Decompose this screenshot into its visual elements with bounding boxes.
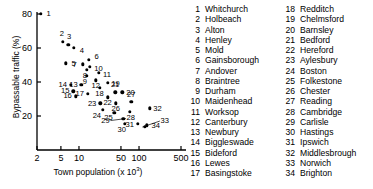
data-point-label-34: 34 <box>152 123 160 131</box>
legend-town-name: Biggleswade <box>205 137 254 147</box>
legend-number: 30 <box>278 127 300 137</box>
y-tick-label-80: 80 <box>12 10 32 19</box>
legend-town-name: Boston <box>300 66 327 76</box>
legend-number: 4 <box>183 35 205 45</box>
legend-town-name: Folkestone <box>300 76 342 86</box>
legend-town-name: Hastings <box>300 127 333 137</box>
legend-item-15: 15Bideford <box>183 148 278 158</box>
legend-item-27: 27Reading <box>278 96 373 106</box>
legend-number: 32 <box>278 148 300 158</box>
legend-item-23: 23Aylesbury <box>278 55 373 65</box>
data-point-label-16: 16 <box>63 93 71 101</box>
data-point-label-1: 1 <box>47 10 51 18</box>
data-point-label-3: 3 <box>67 33 71 41</box>
legend-town-name: Andover <box>205 66 237 76</box>
x-axis-label-tail: ) <box>140 167 143 177</box>
legend-number: 7 <box>183 66 205 76</box>
legend-town-name: Canterbury <box>205 117 248 127</box>
data-point-label-17: 17 <box>76 90 84 98</box>
data-point-label-7: 7 <box>72 61 76 69</box>
data-point-label-2: 2 <box>60 30 64 38</box>
legend-number: 22 <box>278 45 300 55</box>
legend-number: 3 <box>183 25 205 35</box>
x-axis-label-base: Town population (x 10 <box>54 167 137 177</box>
legend-item-4: 4Henley <box>183 35 278 45</box>
legend-item-25: 25Folkestone <box>278 76 373 86</box>
legend-column-1: 1Whitchurch2Holbeach3Alton4Henley5Mold6G… <box>183 4 278 189</box>
legend-number: 34 <box>278 168 300 178</box>
legend-number: 19 <box>278 14 300 24</box>
legend-item-3: 3Alton <box>183 25 278 35</box>
legend-town-name: Bedford <box>300 35 330 45</box>
legend-town-name: Carlisle <box>300 117 329 127</box>
legend-town-name: Worksop <box>205 107 239 117</box>
y-tick-label-60: 60 <box>12 44 32 53</box>
legend-town-name: Lewes <box>205 158 230 168</box>
y-tick-label-40: 40 <box>12 78 32 87</box>
legend-item-5: 5Mold <box>183 45 278 55</box>
legend-town-name: Reading <box>300 96 332 106</box>
legend-item-33: 33Norwich <box>278 158 373 168</box>
legend-town-name: Aylesbury <box>300 55 338 65</box>
y-tick-label-20: 20 <box>12 112 32 121</box>
legend-item-8: 8Braintree <box>183 76 278 86</box>
legend-town-name: Alton <box>205 25 225 35</box>
legend-number: 6 <box>183 55 205 65</box>
legend-item-9: 9Durham <box>183 86 278 96</box>
legend-town-name: Gainsborough <box>205 55 259 65</box>
legend-number: 33 <box>278 158 300 168</box>
legend-item-1: 1Whitchurch <box>183 4 278 14</box>
legend-town-name: Redditch <box>300 4 334 14</box>
legend: 1Whitchurch2Holbeach3Alton4Henley5Mold6G… <box>183 4 373 189</box>
legend-town-name: Braintree <box>205 76 240 86</box>
legend-town-name: Chelmsford <box>300 14 344 24</box>
data-point-label-23: 23 <box>88 100 96 108</box>
legend-town-name: Cambridge <box>300 107 342 117</box>
legend-item-13: 13Newbury <box>183 127 278 137</box>
legend-item-10: 10Maidenhead <box>183 96 278 106</box>
legend-item-14: 14Biggleswade <box>183 137 278 147</box>
legend-number: 10 <box>183 96 205 106</box>
legend-item-32: 32Middlesbrough <box>278 148 373 158</box>
legend-column-2: 18Redditch19Chelmsford20Barnsley21Bedfor… <box>278 4 373 189</box>
legend-number: 11 <box>183 107 205 117</box>
legend-number: 27 <box>278 96 300 106</box>
data-point-label-27: 27 <box>127 91 135 99</box>
legend-town-name: Chester <box>300 86 330 96</box>
legend-item-28: 28Cambridge <box>278 107 373 117</box>
legend-number: 8 <box>183 76 205 86</box>
legend-item-12: 12Canterbury <box>183 117 278 127</box>
data-point-label-29: 29 <box>101 117 109 125</box>
legend-number: 26 <box>278 86 300 96</box>
legend-number: 5 <box>183 45 205 55</box>
legend-town-name: Basingstoke <box>205 168 252 178</box>
legend-number: 24 <box>278 66 300 76</box>
legend-item-21: 21Bedford <box>278 35 373 45</box>
data-point-label-31: 31 <box>125 121 133 129</box>
legend-number: 23 <box>278 55 300 65</box>
legend-number: 25 <box>278 76 300 86</box>
legend-town-name: Maidenhead <box>205 96 252 106</box>
legend-town-name: Brighton <box>300 168 332 178</box>
data-point-label-9: 9 <box>83 78 87 86</box>
legend-number: 18 <box>278 4 300 14</box>
legend-item-7: 7Andover <box>183 66 278 76</box>
x-axis-label: Town population (x 103) <box>18 166 178 177</box>
legend-town-name: Ipswich <box>300 137 329 147</box>
legend-number: 2 <box>183 14 205 24</box>
legend-number: 15 <box>183 148 205 158</box>
legend-number: 16 <box>183 158 205 168</box>
data-point-label-4: 4 <box>80 47 84 55</box>
legend-item-29: 29Carlisle <box>278 117 373 127</box>
legend-town-name: Durham <box>205 86 236 96</box>
legend-item-31: 31Ipswich <box>278 137 373 147</box>
legend-item-6: 6Gainsborough <box>183 55 278 65</box>
legend-number: 21 <box>278 35 300 45</box>
data-point-label-33: 33 <box>161 117 169 125</box>
scatter-chart: Bypassable traffic (%) Town population (… <box>0 0 190 189</box>
legend-number: 29 <box>278 117 300 127</box>
x-tick-label-2: 2 <box>25 154 49 163</box>
legend-town-name: Hereford <box>300 45 333 55</box>
legend-item-11: 11Worksop <box>183 107 278 117</box>
legend-number: 14 <box>183 137 205 147</box>
